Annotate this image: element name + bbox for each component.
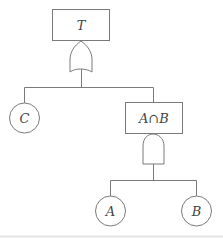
intermediate-event-label: A∩B — [138, 111, 169, 126]
basic-event-a-label: A — [105, 204, 115, 219]
or-gate-icon — [70, 41, 92, 72]
top-event-label: T — [77, 18, 87, 33]
basic-event-c-label: C — [20, 111, 30, 126]
and-gate-icon — [143, 134, 164, 164]
basic-event-b-label: B — [191, 204, 202, 219]
fault-tree-diagram: T C A∩B A B — [0, 0, 223, 239]
